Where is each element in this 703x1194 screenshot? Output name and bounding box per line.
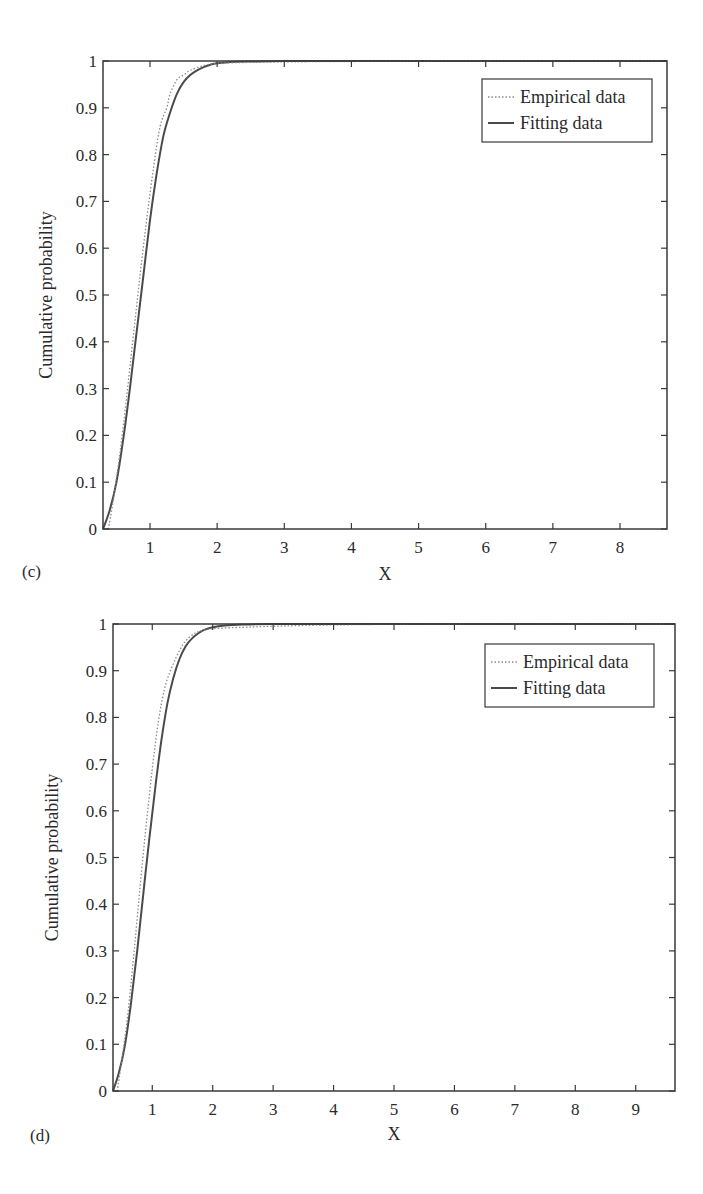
y-tick-label: 1 (89, 52, 98, 71)
y-tick-label: 0.1 (76, 473, 97, 492)
x-tick-label: 7 (549, 538, 558, 557)
x-tick-label: 7 (511, 1100, 520, 1119)
x-tick-label: 5 (414, 538, 423, 557)
y-tick-label: 1 (99, 615, 108, 634)
chart-panel-d: 123456789 00.10.20.30.40.50.60.70.80.91 … (30, 615, 675, 1145)
legend: Empirical data Fitting data (482, 79, 652, 142)
legend-fitting-label: Fitting data (523, 678, 606, 698)
x-tick-label: 6 (450, 1100, 459, 1119)
figure: 12345678 00.10.20.30.40.50.60.70.80.91 X… (0, 0, 703, 1194)
panel-label: (d) (30, 1126, 50, 1145)
x-tick-label: 1 (148, 1100, 157, 1119)
y-axis-label: Cumulative probability (36, 211, 56, 378)
y-tick-label: 0.6 (86, 802, 107, 821)
legend-empirical-label: Empirical data (520, 87, 625, 107)
x-tick-label: 9 (631, 1100, 640, 1119)
x-axis-label: X (379, 564, 392, 584)
legend-empirical-label: Empirical data (523, 652, 628, 672)
y-tick-label: 0 (99, 1082, 108, 1101)
y-tick-label: 0.4 (76, 333, 98, 352)
x-tick-label: 3 (269, 1100, 278, 1119)
y-tick-label: 0.3 (86, 942, 107, 961)
y-tick-label: 0.5 (86, 849, 107, 868)
y-tick-label: 0 (89, 520, 98, 539)
y-tick-label: 0.1 (86, 1035, 107, 1054)
y-tick-label: 0.7 (76, 192, 98, 211)
y-tick-label: 0.2 (86, 989, 107, 1008)
y-tick-label: 0.9 (86, 662, 107, 681)
y-tick-label: 0.2 (76, 426, 97, 445)
x-tick-label: 8 (616, 538, 625, 557)
y-tick-label: 0.3 (76, 380, 97, 399)
y-tick-label: 0.5 (76, 286, 97, 305)
legend-fitting-label: Fitting data (520, 113, 603, 133)
legend: Empirical data Fitting data (485, 644, 654, 707)
x-tick-label: 4 (347, 538, 356, 557)
y-axis-label: Cumulative probability (42, 774, 62, 941)
panel-label: (c) (22, 562, 41, 581)
y-tick-label: 0.9 (76, 99, 97, 118)
chart-panel-c: 12345678 00.10.20.30.40.50.60.70.80.91 X… (22, 52, 667, 584)
x-tick-label: 3 (280, 538, 289, 557)
y-tick-label: 0.7 (86, 755, 108, 774)
x-tick-label: 4 (329, 1100, 338, 1119)
x-tick-label: 8 (571, 1100, 580, 1119)
x-tick-label: 6 (481, 538, 490, 557)
y-tick-label: 0.6 (76, 239, 97, 258)
y-tick-label: 0.8 (76, 146, 97, 165)
y-tick-label: 0.8 (86, 708, 107, 727)
x-tick-label: 2 (208, 1100, 217, 1119)
x-tick-label: 5 (390, 1100, 399, 1119)
y-tick-label: 0.4 (86, 895, 108, 914)
x-tick-label: 2 (213, 538, 222, 557)
x-tick-label: 1 (146, 538, 155, 557)
x-axis-label: X (388, 1124, 401, 1144)
